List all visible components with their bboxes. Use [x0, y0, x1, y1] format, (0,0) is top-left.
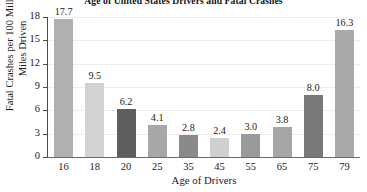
bar[interactable]: [85, 83, 104, 157]
x-tick-label: 25: [140, 161, 175, 172]
bar-value-label: 16.3: [328, 17, 361, 28]
bar[interactable]: [54, 19, 73, 157]
bar-value-label: 4.1: [141, 112, 174, 123]
bar-value-label: 2.4: [203, 125, 236, 136]
y-tick-label: 6: [14, 103, 40, 114]
bar[interactable]: [304, 95, 323, 157]
y-tick-mark: [43, 40, 48, 41]
chart-figure: Age of United States Drivers and Fatal C…: [0, 0, 367, 192]
x-tick-label: 75: [296, 161, 331, 172]
y-tick-label: 15: [14, 33, 40, 44]
bar[interactable]: [273, 127, 292, 157]
gridline: [48, 64, 360, 65]
x-axis-line: [44, 157, 360, 158]
y-tick-label: 12: [14, 57, 40, 68]
x-axis-label: Age of Drivers: [48, 174, 360, 186]
y-tick-label: 18: [14, 10, 40, 21]
bar-value-label: 17.7: [47, 6, 80, 17]
x-tick-label: 55: [233, 161, 268, 172]
bar[interactable]: [117, 109, 136, 157]
bar[interactable]: [179, 135, 198, 157]
x-tick-label: 35: [171, 161, 206, 172]
y-tick-mark: [43, 110, 48, 111]
bar-value-label: 3.8: [266, 114, 299, 125]
bar-value-label: 6.2: [110, 96, 143, 107]
bar[interactable]: [241, 134, 260, 157]
y-axis-tick-labels: 0369121518: [10, 0, 40, 192]
bar-value-label: 3.0: [234, 121, 267, 132]
bar[interactable]: [335, 30, 354, 157]
bar[interactable]: [148, 125, 167, 157]
gridline: [48, 17, 360, 18]
x-tick-label: 65: [265, 161, 300, 172]
x-tick-label: 45: [202, 161, 237, 172]
bar-value-label: 8.0: [297, 82, 330, 93]
y-tick-label: 9: [14, 80, 40, 91]
chart-title: Age of United States Drivers and Fatal C…: [0, 0, 367, 6]
y-tick-label: 0: [14, 150, 40, 161]
x-tick-label: 18: [77, 161, 112, 172]
y-tick-mark: [43, 87, 48, 88]
x-tick-label: 16: [46, 161, 81, 172]
y-tick-mark: [43, 64, 48, 65]
y-tick-mark: [43, 157, 48, 158]
bar-value-label: 2.8: [172, 122, 205, 133]
bar[interactable]: [210, 138, 229, 157]
gridline: [48, 40, 360, 41]
x-tick-label: 79: [327, 161, 362, 172]
x-tick-label: 20: [109, 161, 144, 172]
y-tick-mark: [43, 134, 48, 135]
y-tick-label: 3: [14, 127, 40, 138]
bar-value-label: 9.5: [78, 70, 111, 81]
